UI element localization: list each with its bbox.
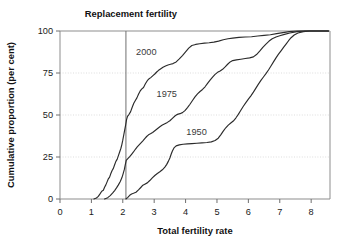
x-tick-label-1: 1 xyxy=(89,207,94,217)
x-tick-label-2: 2 xyxy=(120,207,125,217)
x-tick-label-7: 7 xyxy=(277,207,282,217)
y-tick-label-0: 0 xyxy=(48,194,53,204)
series-label-2000: 2000 xyxy=(136,47,156,57)
x-axis-title: Total fertility rate xyxy=(157,225,232,236)
x-tick-label-4: 4 xyxy=(183,207,188,217)
y-axis-title: Cumulative proportion (per cent) xyxy=(5,42,16,188)
x-tick-label-3: 3 xyxy=(152,207,157,217)
replacement-fertility-label: Replacement fertility xyxy=(85,8,178,19)
cumulative-fertility-chart: 0255075100 012345678 200019751950 Replac… xyxy=(0,0,340,247)
chart-background xyxy=(0,0,340,247)
series-label-1950: 1950 xyxy=(186,127,206,137)
y-tick-label-25: 25 xyxy=(43,152,53,162)
x-tick-label-6: 6 xyxy=(246,207,251,217)
y-tick-label-100: 100 xyxy=(38,26,53,36)
chart-container: 0255075100 012345678 200019751950 Replac… xyxy=(0,0,340,247)
x-tick-label-0: 0 xyxy=(57,207,62,217)
x-tick-label-8: 8 xyxy=(309,207,314,217)
series-label-1975: 1975 xyxy=(157,89,177,99)
x-tick-label-5: 5 xyxy=(214,207,219,217)
y-tick-label-75: 75 xyxy=(43,68,53,78)
y-tick-label-50: 50 xyxy=(43,110,53,120)
